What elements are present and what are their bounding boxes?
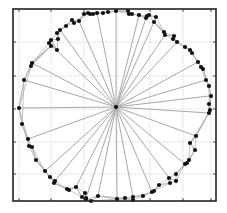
data-point: [58, 28, 62, 32]
data-point: [67, 188, 71, 192]
data-point: [172, 34, 176, 38]
data-point: [168, 181, 172, 185]
data-point: [48, 175, 52, 179]
data-point: [152, 20, 156, 24]
data-point: [208, 108, 212, 112]
data-point: [101, 11, 105, 15]
data-point: [183, 45, 187, 49]
data-point: [154, 15, 158, 19]
data-point: [17, 106, 21, 110]
data-point: [55, 48, 59, 52]
data-point: [194, 134, 198, 138]
data-point: [123, 196, 127, 200]
data-point: [77, 19, 81, 23]
data-point: [209, 94, 213, 98]
data-point: [193, 148, 197, 152]
data-point: [145, 14, 149, 18]
data-point: [83, 191, 87, 195]
data-point: [96, 194, 100, 198]
data-point: [80, 195, 84, 199]
data-point: [49, 44, 53, 48]
data-point: [174, 172, 178, 176]
data-point: [141, 194, 145, 198]
data-point: [199, 65, 203, 69]
data-point: [167, 176, 171, 180]
center-point: [114, 105, 118, 109]
data-point: [152, 189, 156, 193]
data-point: [207, 102, 211, 106]
data-point: [130, 12, 134, 16]
data-point: [157, 183, 161, 187]
data-point: [29, 64, 33, 68]
data-point: [34, 158, 38, 162]
data-point: [196, 60, 200, 64]
data-point: [106, 10, 110, 14]
data-point: [207, 84, 211, 88]
data-point: [64, 24, 68, 28]
polygon-diagram: [0, 0, 227, 213]
data-point: [82, 12, 86, 16]
data-point: [162, 30, 166, 34]
data-point: [53, 179, 57, 183]
data-point: [204, 78, 208, 82]
data-point: [30, 145, 34, 149]
data-point: [175, 40, 179, 44]
data-point: [174, 179, 178, 183]
data-point: [22, 78, 26, 82]
data-point: [56, 37, 60, 41]
data-point: [74, 185, 78, 189]
data-point: [70, 18, 74, 22]
data-point: [188, 141, 192, 145]
data-point: [55, 31, 59, 35]
data-point: [187, 158, 191, 162]
data-point: [137, 13, 141, 17]
data-point: [26, 137, 30, 141]
data-point: [20, 122, 24, 126]
data-point: [95, 11, 99, 15]
data-point: [188, 48, 192, 52]
data-point: [43, 169, 47, 173]
data-point: [86, 11, 90, 15]
